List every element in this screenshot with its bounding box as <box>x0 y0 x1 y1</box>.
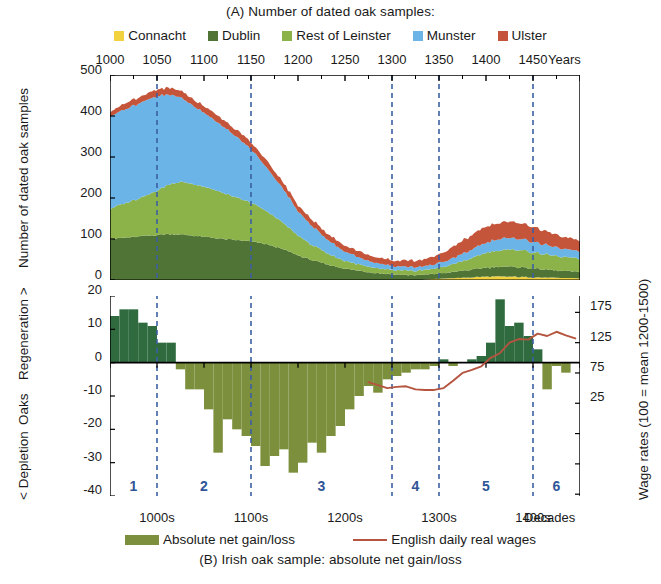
bar <box>260 363 269 466</box>
panel-b-y2-tick-labels: 1751257525 <box>590 290 630 500</box>
bar <box>401 363 410 373</box>
phase-label: 3 <box>312 478 332 494</box>
panel-b-y-tick-label: -40 <box>83 482 102 497</box>
bar <box>411 363 420 370</box>
legend-item-label: English daily real wages <box>391 532 536 547</box>
phase-label: 5 <box>476 478 496 494</box>
legend-item-label: Ulster <box>512 28 547 43</box>
panel-a-y-tick-label: 100 <box>80 226 102 241</box>
panel-a-y-tick-label: 300 <box>80 144 102 159</box>
phase-label: 1 <box>124 478 144 494</box>
panel-b-title: (B) Irish oak sample: absolute net gain/… <box>0 552 661 567</box>
bar <box>317 363 326 453</box>
panel-b-x-tick-label: 1100s <box>226 510 276 525</box>
bar <box>336 363 345 426</box>
bar <box>354 363 363 396</box>
panel-b-y2-tick-label: 75 <box>590 359 604 374</box>
bar <box>110 316 119 363</box>
bar <box>514 323 523 363</box>
legend-swatch-icon <box>208 31 218 41</box>
panel-b-y-tick-label: -20 <box>83 415 102 430</box>
panel-b-x-tick-label: 1300s <box>414 510 464 525</box>
panel-b-plot <box>110 296 580 496</box>
panel-a-y-tick-label: 200 <box>80 185 102 200</box>
top-axis-tick-label: 1150 <box>232 52 270 67</box>
legend-line-icon <box>353 539 387 541</box>
panel-b-y-tick-labels: 20100-10-20-30-40 <box>30 290 108 500</box>
legend-top: ConnachtDublinRest of LeinsterMunsterUls… <box>0 26 661 44</box>
panel-b-y-tick-label: -30 <box>83 449 102 464</box>
legend-item-absolute-net-gain-loss: Absolute net gain/loss <box>125 532 295 547</box>
legend-item-munster: Munster <box>413 28 476 43</box>
legend-swatch-icon <box>413 31 423 41</box>
legend-item-english-daily-real-wages: English daily real wages <box>353 532 536 547</box>
bar <box>477 356 486 363</box>
bar <box>307 363 316 443</box>
phase-label: 6 <box>547 478 567 494</box>
panel-b-y-tick-label: 10 <box>88 315 102 330</box>
panel-b-y2-tick-label: 175 <box>590 298 612 313</box>
panel-b-y-tick-label: 0 <box>95 349 102 364</box>
panel-b-y-tick-label: -10 <box>83 382 102 397</box>
legend-bottom: Absolute net gain/lossEnglish daily real… <box>0 530 661 548</box>
top-axis-tick-label: 1350 <box>420 52 458 67</box>
bar <box>505 326 514 363</box>
panel-b-x-unit-label: Decades <box>524 510 575 525</box>
bar <box>119 309 128 362</box>
top-axis-tick-label: 1200 <box>279 52 317 67</box>
panel-a-y-tick-label: 0 <box>95 267 102 282</box>
bar <box>561 363 570 373</box>
top-axis-tick-label: 1400 <box>467 52 505 67</box>
panel-a-title: (A) Number of dated oak samples: <box>0 4 661 19</box>
panel-a-y-tick-label: 500 <box>80 62 102 77</box>
legend-item-label: Dublin <box>222 28 260 43</box>
top-axis-unit-label: Years <box>548 52 581 67</box>
top-axis-tick-label: 1300 <box>373 52 411 67</box>
phase-label: 2 <box>194 478 214 494</box>
legend-swatch-icon <box>498 31 508 41</box>
bar <box>176 363 185 370</box>
phase-number-row: 123456 <box>110 478 580 498</box>
panel-b-y2-tick-label: 125 <box>590 329 612 344</box>
top-axis-tick-label: 1250 <box>326 52 364 67</box>
legend-item-connacht: Connacht <box>114 28 186 43</box>
bar <box>279 363 288 450</box>
bar <box>533 349 542 362</box>
bar <box>185 363 194 390</box>
legend-item-dublin: Dublin <box>208 28 260 43</box>
panel-a-y-tick-labels: 5004003002001000 <box>30 70 108 280</box>
top-axis-tick-label: 1100 <box>185 52 223 67</box>
bar <box>129 309 138 362</box>
bar <box>157 343 166 363</box>
panel-b-y2-tick-label: 25 <box>590 389 604 404</box>
bar <box>232 363 241 430</box>
bar <box>270 363 279 456</box>
bar <box>195 363 204 390</box>
panel-a-plot <box>110 75 580 280</box>
top-axis-tick-label: 1450 <box>514 52 552 67</box>
bar <box>251 363 260 446</box>
panel-a-y-tick-label: 400 <box>80 103 102 118</box>
legend-swatch-icon <box>125 535 159 545</box>
bar-series-absolute-net-gain-loss <box>110 299 571 472</box>
bar <box>345 363 354 410</box>
legend-swatch-icon <box>282 31 292 41</box>
bar <box>213 363 222 453</box>
panel-b-x-tick-label: 1000s <box>132 510 182 525</box>
legend-item-ulster: Ulster <box>498 28 547 43</box>
phase-label: 4 <box>406 478 426 494</box>
bar <box>242 363 251 436</box>
bar <box>148 326 157 363</box>
top-axis-tick-label: 1050 <box>138 52 176 67</box>
panel-b-x-tick-label: 1200s <box>320 510 370 525</box>
bar <box>298 363 307 463</box>
legend-item-label: Connacht <box>128 28 186 43</box>
bar <box>166 343 175 363</box>
bar <box>326 363 335 436</box>
bar <box>138 323 147 363</box>
bar <box>420 363 429 370</box>
panel-b-y-tick-label: 20 <box>88 282 102 297</box>
bar <box>204 363 213 410</box>
legend-item-rest-of-leinster: Rest of Leinster <box>282 28 391 43</box>
bar <box>373 363 382 393</box>
